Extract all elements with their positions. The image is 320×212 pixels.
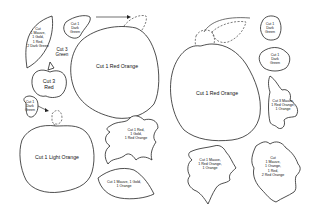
label-top-small-leaf: Cut 1 Dark Green	[70, 22, 80, 35]
label-apple-right-big: Cut 1 Red Orange	[196, 90, 238, 96]
label-left-stem-leaf: Cut 1 Dark Green	[25, 100, 35, 113]
label-cut3-green: Cut 3 Green	[56, 47, 69, 57]
label-right-oak: Cut 3 Mauve, 1 Red Orange, 1 Orange	[271, 99, 295, 112]
maple-left-shape	[188, 145, 236, 204]
label-right-leaf-1: Cut 1 Dark Green	[265, 22, 275, 35]
label-oak-leaf-left: Cut 1 Red, 1 Gold, 1 Red Orange	[125, 128, 148, 141]
apple-left-big-shape	[71, 27, 159, 119]
label-apple-light-orange: Cut 1 Light Orange	[35, 154, 79, 160]
label-maple-right: Cut 1 Mauve, 1 Orange, 1 Red, 2 Red Oran…	[262, 156, 285, 177]
arrow-head-icon	[127, 15, 131, 19]
label-right-leaf-2: Cut 1 Dark Green	[270, 53, 280, 66]
arrow-line-2	[38, 106, 46, 110]
label-apple-left-big: Cut 1 Red Orange	[96, 63, 138, 69]
label-small-apple: Cut 3 Red	[43, 78, 55, 90]
label-leaf-bottom-left: Cut 1 Mauve, 1 Gold, 1 Orange	[107, 180, 141, 188]
arrow-head-icon-2	[45, 108, 49, 112]
stem-curve	[204, 18, 250, 32]
label-left-leaf-big: Cut 1 Mauve, 1 Gold, 1 Red, 2 Dark Green	[27, 27, 49, 48]
stem-shape	[48, 62, 54, 70]
dashed-leaf-right-2	[212, 21, 246, 42]
label-maple-left: Cut 1 Mauve, 1 Red Orange, 1 Orange	[198, 158, 222, 171]
